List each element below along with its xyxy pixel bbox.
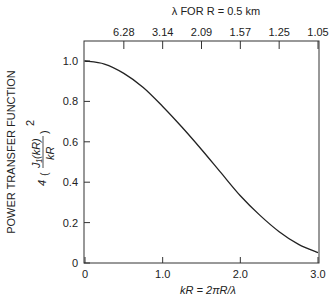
y-tick-label: 0.2 xyxy=(63,217,78,229)
x-tick-label: 0 xyxy=(82,268,88,280)
svg-text:J₁(kR): J₁(kR) xyxy=(30,138,42,169)
x-tick-label: 3.0 xyxy=(310,268,325,280)
y-tick-label: 0 xyxy=(72,257,78,269)
top-axis: 6.283.142.091.571.251.05 xyxy=(113,26,329,49)
top-tick-label: 1.57 xyxy=(230,26,251,38)
top-tick-label: 2.09 xyxy=(191,26,212,38)
y-axis-formula: 4 ( J₁(kR) kR ) 2 xyxy=(24,120,56,186)
x-axis: 01.02.03.0 xyxy=(82,257,326,280)
svg-text:): ) xyxy=(38,130,50,134)
x-tick-label: 1.0 xyxy=(155,268,170,280)
top-tick-label: 1.05 xyxy=(307,26,328,38)
top-tick-label: 1.25 xyxy=(268,26,289,38)
x-axis-label: kR = 2πR/λ xyxy=(180,284,236,296)
x-tick-label: 2.0 xyxy=(233,268,248,280)
y-axis-label: POWER TRANSFER FUNCTION xyxy=(5,70,17,234)
svg-text:(: ( xyxy=(38,172,50,176)
data-line xyxy=(85,61,318,253)
top-tick-label: 3.14 xyxy=(152,26,173,38)
top-axis-title: λ FOR R = 0.5 km xyxy=(172,5,260,17)
chart: 00.20.40.60.81.0 01.02.03.0 6.283.142.09… xyxy=(0,0,335,307)
y-tick-label: 0.6 xyxy=(63,136,78,148)
svg-text:4: 4 xyxy=(36,180,48,186)
top-tick-label: 6.28 xyxy=(113,26,134,38)
svg-text:kR: kR xyxy=(44,147,56,161)
y-tick-label: 1.0 xyxy=(63,55,78,67)
y-tick-label: 0.4 xyxy=(63,176,78,188)
plot-frame xyxy=(84,41,319,263)
y-tick-label: 0.8 xyxy=(63,95,78,107)
svg-text:2: 2 xyxy=(24,120,36,126)
y-axis: 00.20.40.60.81.0 xyxy=(63,55,90,269)
